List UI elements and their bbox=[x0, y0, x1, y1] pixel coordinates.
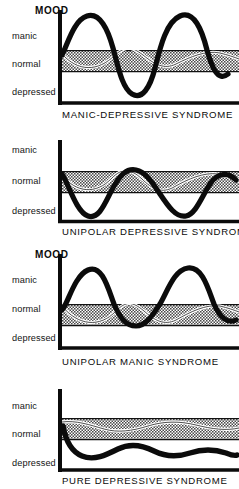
y-tick-depressed: depressed bbox=[12, 459, 56, 468]
panel-caption: PURE DEPRESSIVE SYNDROME bbox=[62, 476, 228, 486]
panel-caption: UNIPOLAR MANIC SYNDROME bbox=[62, 357, 219, 367]
panel-caption: MANIC-DEPRESSIVE SYNDROME bbox=[62, 110, 233, 120]
panel-caption: UNIPOLAR DEPRESSIVE SYNDROME bbox=[62, 227, 239, 237]
normal-range-band bbox=[62, 418, 239, 440]
y-tick-depressed: depressed bbox=[12, 88, 56, 97]
y-tick-normal: normal bbox=[12, 430, 41, 439]
plot-area-pure-depressive bbox=[56, 389, 239, 474]
plot-area-unipolar-manic bbox=[56, 254, 239, 352]
y-tick-normal: normal bbox=[12, 177, 41, 186]
y-tick-manic: manic bbox=[12, 32, 37, 41]
panel-pure-depressive: manic normal depressed bbox=[0, 372, 239, 489]
y-tick-depressed: depressed bbox=[12, 207, 56, 216]
panel-manic-depressive: MOOD manic normal depressed bbox=[0, 0, 239, 122]
y-tick-depressed: depressed bbox=[12, 334, 56, 343]
y-tick-normal: normal bbox=[12, 60, 41, 69]
y-tick-manic: manic bbox=[12, 276, 37, 285]
y-tick-manic: manic bbox=[12, 402, 37, 411]
panel-unipolar-manic: MOOD manic normal depressed bbox=[0, 240, 239, 372]
y-tick-normal: normal bbox=[12, 305, 41, 314]
plot-area-unipolar-depressive bbox=[56, 140, 239, 228]
plot-area-manic-depressive bbox=[56, 10, 239, 105]
panel-unipolar-depressive: manic normal depressed bbox=[0, 122, 239, 240]
mood-syndrome-figure: MOOD manic normal depressed bbox=[0, 0, 239, 489]
y-tick-manic: manic bbox=[12, 146, 37, 155]
